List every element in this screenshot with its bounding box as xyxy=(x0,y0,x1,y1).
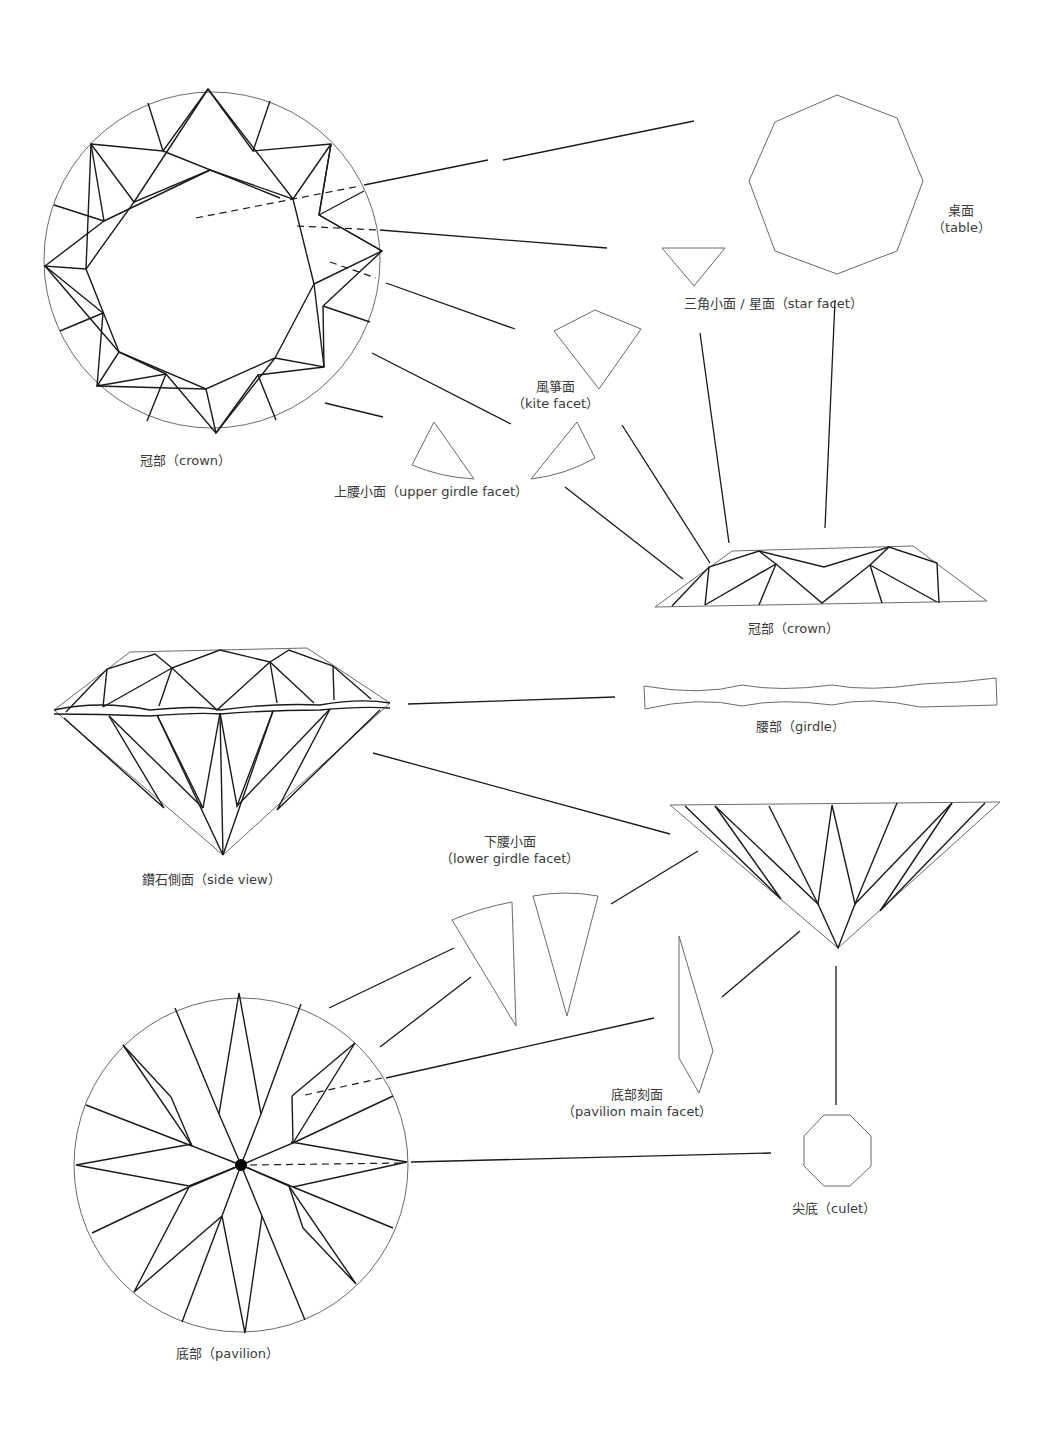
lower-girdle-facet-shape-right xyxy=(533,893,598,1016)
label-crown-top: 冠部（crown） xyxy=(140,452,231,469)
leader-lines-crown xyxy=(325,121,694,424)
label-star-facet: 三角小面 / 星面（star facet） xyxy=(684,295,863,312)
upper-girdle-facet-shape-right xyxy=(531,422,595,479)
diamond-anatomy-diagram xyxy=(0,0,1055,1433)
label-crown-side: 冠部（crown） xyxy=(748,620,839,637)
leader-line-girdle xyxy=(408,697,615,704)
leader-line-pavilion-side xyxy=(373,753,670,834)
label-pavilion-main-facet-zh: 底部刻面 xyxy=(562,1086,712,1103)
label-side-view: 鑽石側面（side view） xyxy=(142,871,281,888)
label-upper-girdle-facet: 上腰小面（upper girdle facet） xyxy=(334,483,528,500)
label-pavilion-main-facet-en: （pavilion main facet） xyxy=(562,1103,712,1120)
culet-point-icon xyxy=(235,1159,247,1171)
culet-octagon xyxy=(804,1115,871,1186)
label-lower-girdle-facet: 下腰小面 （lower girdle facet） xyxy=(440,833,579,867)
pavilion-main-facet-shape xyxy=(679,936,713,1093)
girdle-shape xyxy=(644,678,997,709)
upper-girdle-facet-shape-left xyxy=(412,422,474,479)
label-table-en: （table） xyxy=(932,219,991,236)
pavilion-side-view xyxy=(670,802,1000,948)
label-table: 桌面 （table） xyxy=(932,202,991,236)
label-pavilion: 底部（pavilion） xyxy=(176,1345,279,1362)
side-view-diamond xyxy=(54,648,390,855)
label-table-zh: 桌面 xyxy=(932,202,991,219)
pavilion-bottom-view xyxy=(74,993,408,1333)
label-lower-girdle-facet-en: （lower girdle facet） xyxy=(440,850,579,867)
label-culet: 尖底（culet） xyxy=(792,1200,876,1217)
label-girdle: 腰部（girdle） xyxy=(756,718,845,735)
lower-girdle-facet-shape-left xyxy=(452,902,516,1026)
star-facet-shape xyxy=(662,248,725,286)
crown-top-view xyxy=(44,89,382,433)
label-lower-girdle-facet-zh: 下腰小面 xyxy=(440,833,579,850)
label-pavilion-main-facet: 底部刻面 （pavilion main facet） xyxy=(562,1086,712,1120)
label-kite-facet-en: （kite facet） xyxy=(512,395,599,412)
label-kite-facet: 風箏面 （kite facet） xyxy=(512,378,599,412)
label-kite-facet-zh: 風箏面 xyxy=(512,378,599,395)
table-octagon xyxy=(749,95,923,274)
leader-lines-side-crown xyxy=(565,300,835,579)
